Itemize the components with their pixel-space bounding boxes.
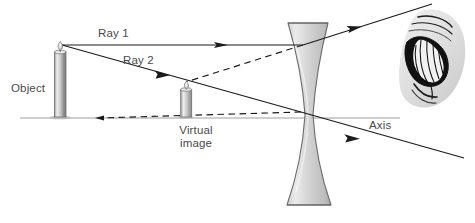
object-candle (54, 42, 66, 118)
virtual-image-label-line1: Virtual (168, 124, 224, 137)
virtual-image-label-line2: image (168, 137, 224, 150)
diagram-canvas (0, 0, 475, 223)
optics-ray-diagram: Object Ray 1 Ray 2 Virtual image Axis (0, 0, 475, 223)
ray-2-label: Ray 2 (123, 54, 154, 67)
ray-1 (62, 4, 432, 48)
axis-label: Axis (369, 119, 391, 132)
virtual-image-candle (181, 81, 192, 117)
object-label: Object (11, 82, 45, 95)
virtual-image-label: Virtual image (168, 124, 224, 150)
ray-1-label: Ray 1 (98, 27, 129, 40)
observer-eye-illustration (399, 10, 465, 108)
